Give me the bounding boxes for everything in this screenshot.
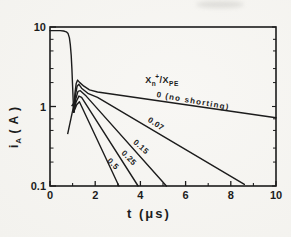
y-axis-unit: ( A ) xyxy=(7,106,21,133)
y-axis-subscript: A xyxy=(14,137,23,144)
curve-ratio-0.15 xyxy=(74,91,167,186)
chart-canvas: 02468101010.1 xyxy=(0,0,291,237)
x-tick-label: 10 xyxy=(270,189,282,201)
legend-sub-n: n xyxy=(152,80,156,87)
figure-root: 02468101010.1 iA ( A ) t (μs) Xn+/XPE 0 … xyxy=(0,0,291,237)
legend-title: Xn+/XPE xyxy=(145,73,179,87)
transient-arrow-shaft xyxy=(68,104,74,134)
y-tick-label: 0.1 xyxy=(31,180,46,192)
y-axis-title: iA ( A ) xyxy=(7,106,23,148)
x-tick-label: 6 xyxy=(183,189,189,201)
x-tick-label: 0 xyxy=(47,189,53,201)
x-axis-title: t (μs) xyxy=(127,206,171,221)
x-tick-label: 4 xyxy=(137,189,144,201)
plot-frame xyxy=(50,27,276,186)
legend-sub-pe: PE xyxy=(169,80,179,87)
x-tick-label: 2 xyxy=(92,189,98,201)
y-tick-label: 10 xyxy=(34,21,46,33)
x-tick-label: 8 xyxy=(228,189,234,201)
curve-ratio-0.5 xyxy=(74,102,119,186)
curve-shared-transient xyxy=(50,31,74,113)
y-axis-symbol: i xyxy=(7,144,21,148)
y-tick-label: 1 xyxy=(40,101,46,113)
